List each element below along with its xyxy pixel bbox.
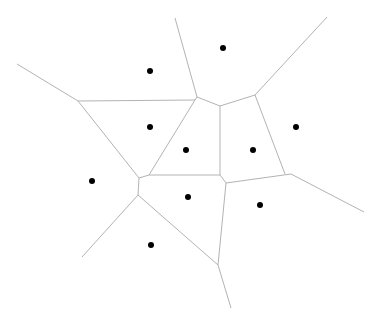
voronoi-site-dot [183,147,189,153]
voronoi-site-dot [250,147,256,153]
voronoi-site-dot [257,202,263,208]
background [0,0,375,321]
voronoi-diagram [0,0,375,321]
voronoi-site-dot [89,178,95,184]
voronoi-site-dot [185,194,191,200]
voronoi-svg [0,0,375,321]
voronoi-site-dot [148,242,154,248]
voronoi-site-dot [147,124,153,130]
voronoi-site-dot [293,124,299,130]
voronoi-site-dot [220,45,226,51]
voronoi-site-dot [147,68,153,74]
